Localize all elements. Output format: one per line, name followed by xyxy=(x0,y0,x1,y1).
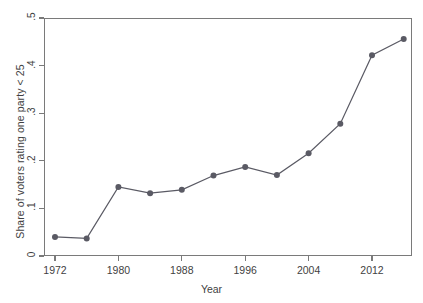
x-tick-label: 1988 xyxy=(170,264,193,276)
y-tick-label: .2 xyxy=(26,152,37,166)
x-tick-label: 2004 xyxy=(297,264,320,276)
y-tick-mark xyxy=(39,255,44,256)
y-tick-label: .5 xyxy=(26,10,37,24)
y-tick-mark xyxy=(39,65,44,66)
y-tick-mark xyxy=(39,208,44,209)
x-tick-mark xyxy=(181,256,182,261)
x-tick-mark xyxy=(371,256,372,261)
x-tick-mark xyxy=(118,256,119,261)
x-tick-label: 2012 xyxy=(360,264,383,276)
y-tick-label: 0 xyxy=(26,248,37,262)
x-tick-mark xyxy=(245,256,246,261)
x-tick-label: 1972 xyxy=(43,264,66,276)
plot-frame xyxy=(44,18,412,256)
y-tick-mark xyxy=(39,17,44,18)
x-tick-label: 1996 xyxy=(234,264,257,276)
plot-area xyxy=(44,18,412,256)
x-tick-mark xyxy=(308,256,309,261)
x-tick-label: 1980 xyxy=(107,264,130,276)
y-tick-mark xyxy=(39,113,44,114)
y-tick-label: .4 xyxy=(26,57,37,71)
x-tick-mark xyxy=(54,256,55,261)
y-tick-label: .3 xyxy=(26,105,37,119)
y-tick-mark xyxy=(39,160,44,161)
y-tick-label: .1 xyxy=(26,200,37,214)
x-axis-title: Year xyxy=(0,283,423,295)
chart-figure: Share of voters rating one party < 25 0.… xyxy=(0,0,423,303)
